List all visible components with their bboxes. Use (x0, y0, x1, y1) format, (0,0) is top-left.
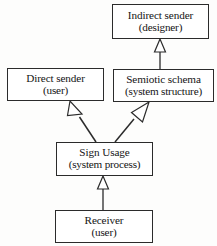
node-sign-usage[interactable]: Sign Usage (system process) (56, 142, 153, 176)
node-semiotic-schema-subtitle: (system structure) (125, 86, 202, 98)
edge-sign-usage-to-direct-sender (68, 101, 97, 142)
node-indirect-sender-title: Indirect sender (128, 10, 193, 22)
generalization-arrowhead-icon (98, 176, 109, 189)
node-semiotic-schema[interactable]: Semiotic schema (system structure) (113, 69, 214, 102)
node-direct-sender-subtitle: (user) (43, 85, 68, 97)
node-direct-sender[interactable]: Direct sender (user) (7, 68, 104, 101)
edge-sign-usage-to-semiotic-schema (115, 102, 149, 142)
node-direct-sender-title: Direct sender (26, 73, 85, 85)
node-sign-usage-subtitle: (system process) (69, 159, 141, 171)
node-indirect-sender[interactable]: Indirect sender (designer) (112, 4, 209, 39)
node-receiver[interactable]: Receiver (user) (55, 210, 153, 243)
node-receiver-subtitle: (user) (92, 227, 117, 239)
edge-line (115, 119, 134, 142)
generalization-arrowhead-icon (132, 102, 150, 122)
edge-semiotic-schema-to-indirect-sender (155, 39, 166, 69)
diagram-canvas: Indirect sender (designer) Direct sender… (0, 0, 217, 246)
edge-receiver-to-sign-usage (98, 176, 109, 210)
node-receiver-title: Receiver (85, 215, 124, 227)
node-indirect-sender-subtitle: (designer) (139, 22, 182, 34)
node-semiotic-schema-title: Semiotic schema (126, 74, 201, 86)
generalization-arrowhead-icon (155, 39, 166, 52)
edge-line (80, 117, 97, 142)
generalization-arrowhead-icon (68, 101, 83, 116)
